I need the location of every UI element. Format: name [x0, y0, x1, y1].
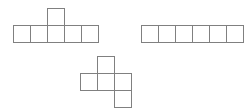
polyomino-square: [141, 25, 159, 43]
polyomino-square: [80, 73, 98, 91]
polyomino-shape-3: [80, 56, 132, 108]
polyomino-square: [226, 25, 244, 43]
polyomino-shape-1: [13, 8, 99, 43]
polyomino-square: [64, 25, 82, 43]
polyomino-square: [13, 25, 31, 43]
polyomino-square: [114, 73, 132, 91]
polyomino-square: [97, 73, 115, 91]
polyomino-square: [114, 90, 132, 108]
polyomino-square: [209, 25, 227, 43]
polyomino-square: [175, 25, 193, 43]
polyomino-square: [158, 25, 176, 43]
polyomino-square: [192, 25, 210, 43]
polyomino-square: [30, 25, 48, 43]
polyomino-square: [97, 56, 115, 74]
polyomino-square: [47, 25, 65, 43]
polyomino-square: [47, 8, 65, 26]
polyomino-square: [81, 25, 99, 43]
polyomino-figure-canvas: [0, 0, 249, 112]
polyomino-shape-2: [141, 25, 244, 43]
